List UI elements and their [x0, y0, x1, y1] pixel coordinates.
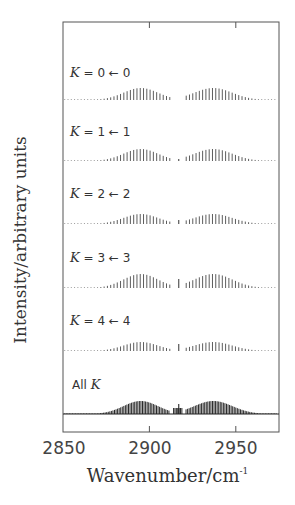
panel-label-k1: K = 1 ← 1 — [70, 124, 130, 139]
plot-frame — [63, 22, 279, 432]
x-tick-2950: 2950 — [214, 438, 257, 458]
x-axis-label: Wavenumber/cm-1 — [0, 465, 295, 486]
panel-label-k4: K = 4 ← 4 — [70, 313, 130, 328]
panel-label-all-k: All K — [72, 377, 100, 392]
plot-area — [0, 0, 295, 505]
panel-label-k2: K = 2 ← 2 — [70, 186, 130, 201]
panel-label-k0: K = 0 ← 0 — [70, 65, 130, 80]
x-tick-2900: 2900 — [128, 438, 171, 458]
x-tick-2850: 2850 — [42, 438, 85, 458]
panel-label-k3: K = 3 ← 3 — [70, 250, 130, 265]
figure: Intensity/arbitrary units 2850 2900 2950… — [0, 0, 295, 505]
